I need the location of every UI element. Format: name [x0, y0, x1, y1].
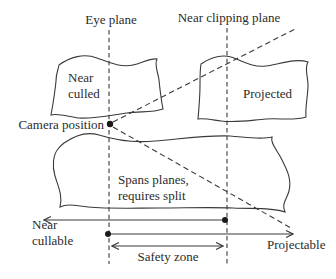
near-clipping-plane-label: Near clipping plane — [178, 10, 281, 25]
near-cullable-label-line2: cullable — [32, 233, 73, 248]
spans-planes-label-line1: Spans planes, — [118, 172, 189, 187]
camera-position-label: Camera position — [18, 117, 104, 132]
safety-zone-label: Safety zone — [137, 249, 198, 264]
projected-label: Projected — [243, 86, 293, 101]
camera-position-dot — [107, 121, 113, 127]
projectable-endpoint-dot — [105, 231, 111, 237]
view-ray-upper — [113, 28, 297, 122]
diagram-canvas: Eye plane Near clipping plane Near culle… — [0, 0, 336, 279]
projectable-label: Projectable — [267, 237, 326, 252]
near-culled-label-line1: Near — [68, 70, 94, 85]
near-culled-label-line2: culled — [68, 86, 100, 101]
spans-planes-label-line2: requires split — [118, 188, 186, 203]
near-cullable-endpoint-dot — [222, 217, 228, 223]
eye-plane-label: Eye plane — [85, 12, 137, 27]
near-cullable-label-line1: Near — [32, 217, 58, 232]
clipping-diagram: Eye plane Near clipping plane Near culle… — [0, 0, 336, 279]
